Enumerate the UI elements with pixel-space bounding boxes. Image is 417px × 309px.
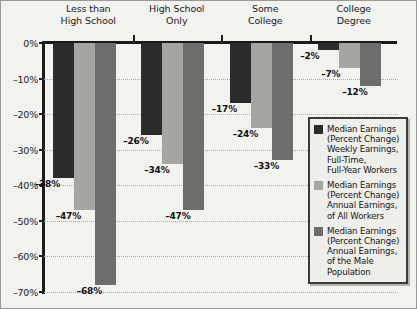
legend-label-line: Median Earnings xyxy=(327,180,399,190)
bar-value-label-0-0: –38% xyxy=(35,179,60,189)
legend-label-line: (Percent Change) xyxy=(327,236,399,246)
category-header-2: SomeCollege xyxy=(221,3,310,27)
bar-value-label-3-2: –12% xyxy=(342,87,367,97)
legend-entry-0: Median Earnings(Percent Change)Weekly Ea… xyxy=(314,124,402,175)
y-axis-tick-label: –60% xyxy=(13,251,38,262)
legend-label-1: Median Earnings(Percent Change)Annual Ea… xyxy=(327,180,399,221)
legend-swatch-0 xyxy=(314,125,323,134)
category-tick xyxy=(310,35,312,43)
category-header-line: Degree xyxy=(310,15,399,27)
category-header-line: Some xyxy=(221,3,310,15)
bar-3-0 xyxy=(318,43,339,50)
y-axis-tick-mark xyxy=(39,220,44,222)
bar-1-0 xyxy=(141,43,162,135)
legend-label-line: Full-Time, xyxy=(327,155,399,165)
bar-0-0 xyxy=(53,43,74,178)
legend-swatch-1 xyxy=(314,181,323,190)
bar-value-label-1-1: –34% xyxy=(144,165,169,175)
legend-entry-2: Median Earnings(Percent Change)Annual Ea… xyxy=(314,226,402,277)
legend-swatch-2 xyxy=(314,227,323,236)
category-header-0: Less thanHigh School xyxy=(44,3,133,27)
y-axis-tick-label: –30% xyxy=(13,144,38,155)
category-header-line: High School xyxy=(133,3,222,15)
y-axis-tick-mark xyxy=(39,42,44,44)
bar-value-label-0-1: –47% xyxy=(56,211,81,221)
bar-value-label-3-0: –2% xyxy=(300,51,319,61)
bar-value-label-3-1: –7% xyxy=(321,69,340,79)
y-axis-tick-label: –20% xyxy=(13,109,38,120)
y-axis-tick-label: –10% xyxy=(13,73,38,84)
bar-value-label-2-0: –17% xyxy=(212,104,237,114)
legend-label-line: (Percent Change) xyxy=(327,190,399,200)
bar-value-label-2-1: –24% xyxy=(233,129,258,139)
legend-label-line: Full-Year Workers xyxy=(327,165,399,175)
grouped-bar-chart: 0%–10%–20%–30%–40%–50%–60%–70% Less than… xyxy=(0,0,417,309)
bar-1-2 xyxy=(183,43,204,210)
bar-value-label-2-2: –33% xyxy=(254,161,279,171)
legend-entry-1: Median Earnings(Percent Change)Annual Ea… xyxy=(314,180,402,221)
y-axis-tick-mark xyxy=(39,113,44,115)
legend-label-line: Annual Earnings, xyxy=(327,246,399,256)
category-header-line: College xyxy=(221,15,310,27)
bar-value-label-1-0: –26% xyxy=(123,136,148,146)
bar-2-2 xyxy=(272,43,293,160)
category-tick xyxy=(133,35,135,43)
category-header-line: High School xyxy=(44,15,133,27)
bar-3-1 xyxy=(339,43,360,68)
y-axis-tick-label: –50% xyxy=(13,215,38,226)
bar-1-1 xyxy=(162,43,183,164)
category-header-line: College xyxy=(310,3,399,15)
y-axis-tick-mark xyxy=(39,255,44,257)
y-axis-tick-mark xyxy=(39,78,44,80)
legend-label-2: Median Earnings(Percent Change)Annual Ea… xyxy=(327,226,399,277)
bar-3-2 xyxy=(360,43,381,86)
chart-legend: Median Earnings(Percent Change)Weekly Ea… xyxy=(308,117,408,284)
category-header-1: High SchoolOnly xyxy=(133,3,222,27)
y-axis-tick-label: –70% xyxy=(13,287,38,298)
bar-0-1 xyxy=(74,43,95,210)
y-axis-tick-mark xyxy=(39,291,44,293)
category-header-3: CollegeDegree xyxy=(310,3,399,27)
legend-label-line: Annual Earnings, xyxy=(327,200,399,210)
category-tick xyxy=(221,35,223,43)
legend-label-line: Median Earnings xyxy=(327,124,399,134)
category-header-line: Only xyxy=(133,15,222,27)
bar-value-label-1-2: –47% xyxy=(165,211,190,221)
legend-label-line: of All Workers xyxy=(327,211,399,221)
legend-label-0: Median Earnings(Percent Change)Weekly Ea… xyxy=(327,124,399,175)
bar-2-1 xyxy=(251,43,272,128)
legend-entries-group: Median Earnings(Percent Change)Weekly Ea… xyxy=(314,124,402,277)
legend-label-line: (Percent Change) xyxy=(327,134,399,144)
legend-label-line: Population xyxy=(327,267,399,277)
legend-label-line: Median Earnings xyxy=(327,226,399,236)
category-header-line: Less than xyxy=(44,3,133,15)
y-axis-tick-label: 0% xyxy=(23,38,38,49)
legend-label-line: of the Male xyxy=(327,256,399,266)
bar-0-2 xyxy=(95,43,116,285)
legend-label-line: Weekly Earnings, xyxy=(327,144,399,154)
bar-2-0 xyxy=(230,43,251,103)
y-axis-tick-mark xyxy=(39,149,44,151)
bar-value-label-0-2: –68% xyxy=(77,286,102,296)
